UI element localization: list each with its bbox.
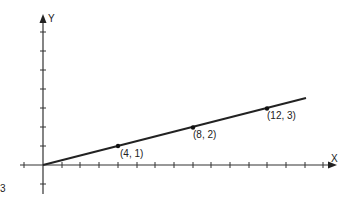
point-label-4-1: (4, 1): [120, 148, 143, 159]
y-axis-arrow-icon: [40, 14, 47, 23]
x-axis-label: X: [331, 153, 338, 164]
x-axis: [20, 162, 337, 169]
point-label-8-2: (8, 2): [193, 129, 216, 140]
y-axis-label: Y: [48, 13, 55, 24]
margin-number: 3: [0, 183, 6, 194]
y-axis: [40, 14, 47, 194]
point-label-12-3: (12, 3): [267, 110, 296, 121]
coordinate-plot: (4, 1) (8, 2) (12, 3) X Y: [0, 0, 351, 202]
